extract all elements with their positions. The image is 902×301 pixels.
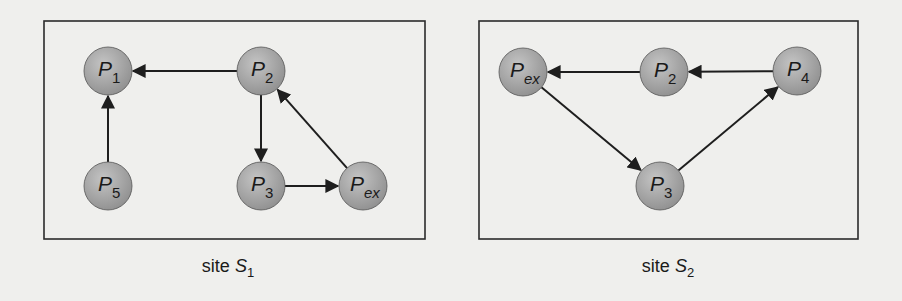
process-node-p1: P1 [84,47,132,95]
process-node-pex: Pex [499,48,547,96]
site-s2-panel: PexP2P4P3site S2 [479,21,858,280]
edge-pex-to-p3 [541,87,640,170]
edge-p3-to-p4 [678,87,777,170]
process-node-p5: P5 [84,162,132,210]
process-node-p4: P4 [773,47,821,95]
edge-pex-to-p2 [278,90,347,168]
process-node-p3: P3 [237,162,285,210]
site-caption: site S1 [202,256,254,280]
process-node-pex: Pex [339,162,387,210]
process-node-p3: P3 [636,162,684,210]
process-node-p2: P2 [237,47,285,95]
process-node-p2: P2 [640,48,688,96]
wait-for-graph-diagram: P1P2P3P5Pexsite S1 PexP2P4P3site S2 [0,0,902,301]
edge-p4-to-p2 [689,71,773,72]
site-s1-panel: P1P2P3P5Pexsite S1 [44,21,425,280]
site-caption: site S2 [642,256,694,280]
